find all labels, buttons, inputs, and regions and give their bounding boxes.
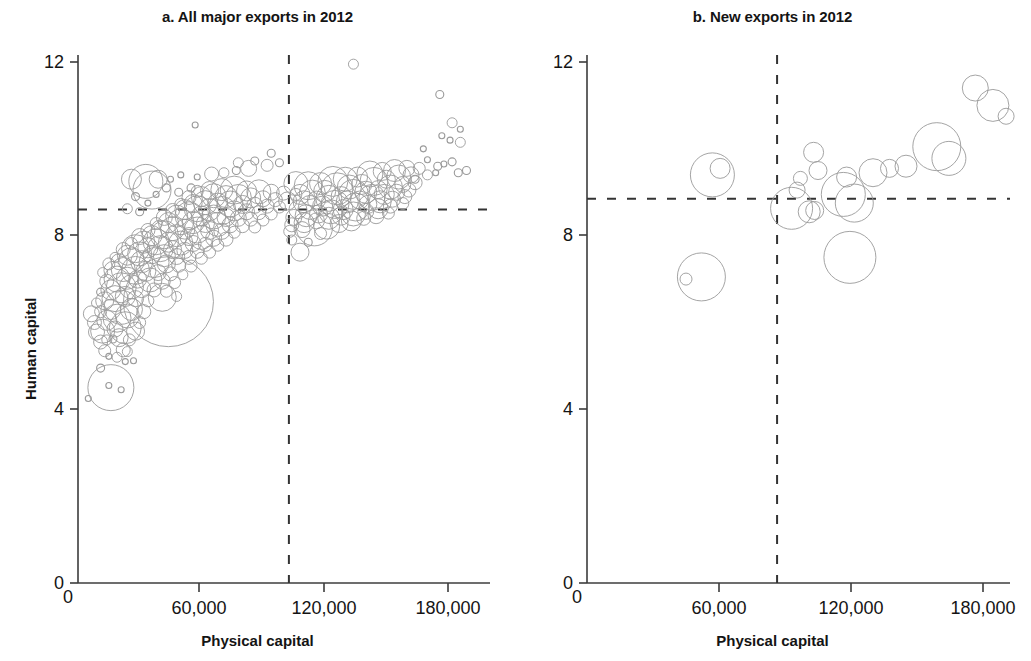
x-tick-label: 180,000 xyxy=(415,598,480,618)
bubble-point xyxy=(104,290,138,324)
bubble-point xyxy=(835,184,873,222)
bubble-point xyxy=(291,243,309,261)
bubble-point xyxy=(175,188,183,196)
bubble-point xyxy=(998,108,1014,124)
y-tick-label: 8 xyxy=(563,225,573,245)
bubble-point xyxy=(809,162,827,180)
bubble-point xyxy=(202,184,226,208)
bubble-point xyxy=(194,174,200,180)
bubble-point xyxy=(424,157,430,163)
bubble-point xyxy=(99,345,111,357)
bubble-point xyxy=(680,273,692,285)
bubble-point xyxy=(131,358,137,364)
x-tick-label: 120,000 xyxy=(291,598,356,618)
bubble-point xyxy=(118,387,124,393)
bubble-point xyxy=(977,89,1009,121)
bubble-point xyxy=(149,170,167,188)
panel-b: b. New exports in 2012 04812060,000120,0… xyxy=(515,0,1030,661)
bubble-point xyxy=(219,168,229,178)
bubble-point xyxy=(296,210,332,246)
bubble-series xyxy=(677,75,1014,301)
bubble-point xyxy=(677,253,725,301)
y-tick-label: 4 xyxy=(54,399,64,419)
x-tick-label: 0 xyxy=(572,587,582,607)
bubble-point xyxy=(457,126,463,132)
bubble-point xyxy=(434,162,442,170)
figure-container: a. All major exports in 2012 04812060,00… xyxy=(0,0,1031,661)
panel-b-x-axis-title: Physical capital xyxy=(515,632,1030,649)
panel-a-x-axis-title: Physical capital xyxy=(0,632,515,649)
bubble-point xyxy=(804,142,824,162)
bubble-point xyxy=(806,201,824,219)
bubble-point xyxy=(267,149,275,157)
bubble-point xyxy=(204,246,216,258)
bubble-point xyxy=(454,169,462,177)
x-tick-label: 120,000 xyxy=(818,598,883,618)
bubble-point xyxy=(447,137,453,143)
bubble-point xyxy=(249,221,261,233)
bubble-point xyxy=(192,122,198,128)
bubble-point xyxy=(122,359,128,365)
x-tick-label: 0 xyxy=(63,587,73,607)
bubble-point xyxy=(178,172,184,178)
bubble-point xyxy=(265,208,277,220)
bubble-point xyxy=(932,141,966,175)
panel-b-plot: 04812060,000120,000180,000 xyxy=(515,0,1030,661)
bubble-point xyxy=(448,158,456,166)
bubble-point xyxy=(821,172,865,216)
bubble-point xyxy=(824,231,876,283)
bubble-point xyxy=(447,118,457,128)
x-tick-label: 180,000 xyxy=(950,598,1015,618)
x-tick-label: 60,000 xyxy=(171,598,226,618)
bubble-point xyxy=(182,190,196,204)
bubble-point xyxy=(162,184,170,192)
bubble-point xyxy=(439,133,445,139)
bubble-point xyxy=(422,170,432,180)
panel-a-y-axis-title: Human capital xyxy=(22,297,39,400)
bubble-point xyxy=(837,167,857,187)
bubble-point xyxy=(463,167,471,175)
x-tick-label: 60,000 xyxy=(691,598,746,618)
y-tick-label: 12 xyxy=(553,52,573,72)
bubble-point xyxy=(129,164,163,198)
bubble-point xyxy=(106,382,112,388)
bubble-point xyxy=(420,146,426,152)
bubble-point xyxy=(962,75,988,101)
bubble-point xyxy=(92,298,102,308)
bubble-point xyxy=(233,158,243,168)
y-tick-label: 4 xyxy=(563,399,573,419)
bubble-point xyxy=(710,158,730,178)
bubble-point xyxy=(145,200,151,206)
bubble-series xyxy=(83,59,470,410)
bubble-point xyxy=(436,91,444,99)
panel-a-plot: 04812060,000120,000180,000 xyxy=(0,0,515,661)
bubble-point xyxy=(97,364,105,372)
y-tick-label: 12 xyxy=(44,52,64,72)
bubble-point xyxy=(261,159,273,171)
bubble-point xyxy=(147,283,161,297)
y-tick-label: 8 xyxy=(54,225,64,245)
bubble-point xyxy=(275,159,283,167)
bubble-point xyxy=(348,59,358,69)
bubble-point xyxy=(205,167,219,181)
panel-a: a. All major exports in 2012 04812060,00… xyxy=(0,0,515,661)
bubble-point xyxy=(455,137,465,147)
bubble-point xyxy=(133,171,171,209)
